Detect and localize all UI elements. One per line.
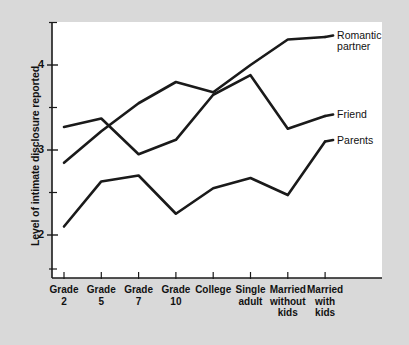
series-label-romantic-partner: Romantic partner <box>337 30 381 53</box>
y-tick-label: 3 <box>28 143 44 155</box>
y-tick-label: 4 <box>28 58 44 70</box>
series-line-parents <box>64 142 325 227</box>
series-label-parents: Parents <box>337 135 373 147</box>
series-line-romantic-partner <box>64 37 325 163</box>
axes-layer <box>47 22 382 279</box>
figure-container: Level of intimate disclosure reported 23… <box>0 0 409 345</box>
series-leader-0 <box>325 35 333 37</box>
y-tick-label: 2 <box>28 228 44 240</box>
x-tick-label: Married with kids <box>302 284 348 319</box>
series-layer <box>64 35 333 226</box>
series-label-friend: Friend <box>337 109 367 121</box>
series-leader-1 <box>325 115 333 117</box>
series-leader-2 <box>325 140 333 142</box>
